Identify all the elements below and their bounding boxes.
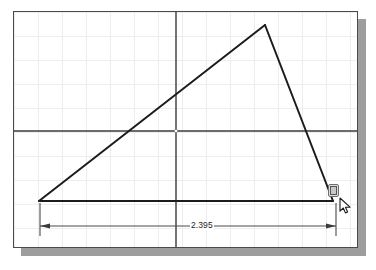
endpoint-snap-marker [328,184,339,197]
background-grid [14,12,357,247]
dimension-value-label[interactable]: 2.395 [190,221,214,230]
drawing-sheet[interactable] [13,11,358,248]
drawing-stage: 2.395 [0,0,376,270]
mouse-pointer-icon [339,197,353,215]
snap-box-icon [330,186,337,195]
